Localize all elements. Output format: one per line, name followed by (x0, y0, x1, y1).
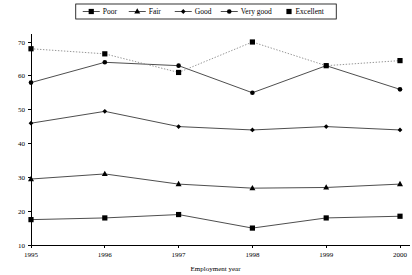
legend-label: Fair (149, 7, 162, 16)
y-tick-label: 40 (18, 140, 26, 148)
data-point (176, 70, 181, 75)
line-chart: PoorFairGoodVery goodExcellent 102030405… (0, 0, 412, 275)
chart-axis-labels: Employment year (191, 265, 242, 273)
data-point (397, 58, 402, 63)
data-point (398, 87, 403, 92)
data-point (249, 185, 255, 190)
x-tick-label: 1997 (172, 251, 187, 259)
data-point (102, 109, 107, 114)
data-point (29, 80, 34, 85)
series-fair (28, 171, 403, 191)
legend-label: Good (195, 7, 212, 16)
data-point (250, 128, 255, 133)
series-good (29, 109, 403, 132)
series-excellent (28, 39, 402, 75)
data-point (29, 121, 34, 126)
x-tick-label: 1999 (319, 251, 334, 259)
data-point (28, 217, 33, 222)
series-very-good (29, 60, 403, 95)
data-point (28, 46, 33, 51)
data-point (324, 124, 329, 129)
x-tick-label: 2000 (393, 251, 408, 259)
data-point (102, 60, 107, 65)
legend-label: Poor (103, 7, 118, 16)
data-point (250, 90, 255, 95)
y-tick-label: 10 (18, 242, 26, 250)
data-point (102, 215, 107, 220)
legend-marker (227, 9, 232, 14)
series-line (31, 215, 400, 229)
series-line (31, 42, 400, 72)
data-point (176, 212, 181, 217)
y-tick-label: 30 (18, 174, 26, 182)
data-point (324, 215, 329, 220)
legend-marker (89, 9, 94, 14)
data-point (323, 184, 329, 189)
y-tick-label: 50 (18, 106, 26, 114)
x-tick-label: 1998 (245, 251, 260, 259)
data-point (176, 63, 181, 68)
legend-marker (286, 9, 291, 14)
series-line (31, 174, 400, 188)
data-point (102, 171, 108, 176)
data-point (250, 39, 255, 44)
legend-label: Excellent (296, 7, 325, 16)
y-tick-label: 20 (18, 208, 26, 216)
data-point (102, 51, 107, 56)
x-axis-title: Employment year (191, 265, 242, 273)
data-point (397, 181, 403, 186)
chart-legend: PoorFairGoodVery goodExcellent (76, 4, 337, 19)
x-tick-label: 1995 (24, 251, 39, 259)
y-tick-label: 70 (18, 39, 26, 47)
data-point (397, 214, 402, 219)
data-point (324, 63, 329, 68)
chart-series (28, 39, 403, 230)
series-line (31, 111, 400, 130)
data-point (250, 225, 255, 230)
x-tick-label: 1996 (98, 251, 113, 259)
series-line (31, 62, 400, 92)
legend-label: Very good (241, 7, 272, 16)
series-poor (28, 212, 402, 231)
data-point (176, 124, 181, 129)
y-tick-label: 60 (18, 72, 26, 80)
chart-axes: 10203040506070199519961997199819992000 (18, 34, 410, 259)
data-point (398, 128, 403, 133)
chart-svg: PoorFairGoodVery goodExcellent 102030405… (0, 0, 412, 275)
